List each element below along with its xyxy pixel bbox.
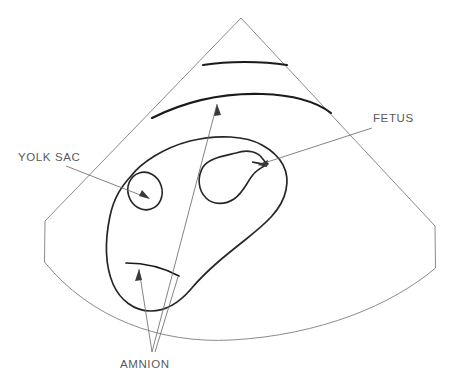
fetus-outline [199,151,268,203]
amnion-leader-line-upper [152,104,217,352]
label-amnion: AMNION [120,358,170,370]
fetus-leader-line [258,128,372,165]
ultrasound-diagram-canvas: FETUS YOLK SAC AMNION [0,0,451,383]
amnion-leader-line-lower-b [155,277,178,352]
sector-field-outline [45,18,436,340]
uterine-wall-arc-near [203,62,287,65]
amnion-arrowhead-lower [135,269,142,281]
label-yolk-sac: YOLK SAC [18,151,80,163]
uterine-wall-arc-far [152,94,331,118]
label-fetus: FETUS [373,112,414,124]
yolk-sac-arrowhead [139,190,150,199]
amnion-inner-membrane-line [126,263,179,276]
ultrasound-sector-diagram: FETUS YOLK SAC AMNION [0,0,451,383]
